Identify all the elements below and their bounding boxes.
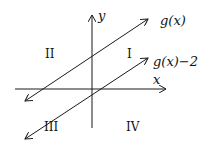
x-axis-label: x [153,72,161,87]
coordinate-plane: y x g(x) g(x)−2 I II III IV [0,0,204,151]
quadrant-label-i: I [127,47,132,61]
quadrant-label-ii: II [45,47,55,61]
graph-diagram: y x g(x) g(x)−2 I II III IV [0,0,204,151]
quadrant-label-iv: IV [126,120,140,134]
line-label-g-of-x: g(x) [160,13,186,28]
y-axis-label: y [97,8,106,23]
quadrant-label-iii: III [44,120,58,134]
line-label-g-of-x-minus-2: g(x)−2 [153,54,198,69]
